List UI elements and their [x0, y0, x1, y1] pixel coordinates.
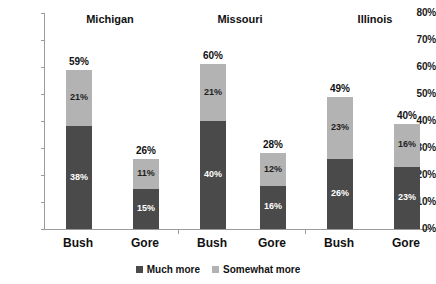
bar-total-label: 26% — [127, 146, 165, 156]
x-category-label-1: Bush — [48, 236, 108, 250]
bar-segment-label-much-more: 40% — [200, 170, 226, 179]
bar-segment-much-more: 15% — [133, 189, 159, 230]
bar-stack: 23%16% — [394, 124, 420, 229]
y-tick-mark — [41, 202, 45, 203]
y-tick-mark — [41, 175, 45, 176]
group-separator — [305, 229, 306, 234]
bar-segment-label-much-more: 23% — [394, 193, 420, 202]
bar-total-label: 60% — [194, 51, 232, 61]
bar-segment-much-more: 40% — [200, 121, 226, 229]
y-tick-mark — [41, 94, 45, 95]
bar-stack: 16%12% — [260, 153, 286, 229]
bar-total-label: 59% — [60, 57, 98, 67]
bar-stack: 38%21% — [66, 70, 92, 229]
bar-segment-label-somewhat-more: 16% — [394, 140, 420, 149]
bar-segment-much-more: 23% — [394, 167, 420, 229]
bar-segment-much-more: 26% — [327, 159, 353, 229]
bar-segment-somewhat-more: 11% — [133, 159, 159, 189]
legend-label-much-more: Much more — [147, 264, 200, 275]
bar-segment-label-somewhat-more: 21% — [200, 88, 226, 97]
bar-stack: 26%23% — [327, 97, 353, 229]
legend-item-much-more: Much more — [136, 264, 200, 275]
chart-legend: Much more Somewhat more — [0, 264, 436, 275]
x-axis-line — [44, 229, 432, 230]
bar-1: 38%21%59% — [66, 70, 92, 229]
bar-segment-label-much-more: 16% — [260, 202, 286, 211]
bar-segment-label-much-more: 15% — [133, 204, 159, 213]
bar-segment-label-much-more: 38% — [66, 173, 92, 182]
y-tick-label-60: 60% — [396, 62, 436, 72]
bar-6: 23%16%40% — [394, 124, 420, 229]
bar-4: 16%12%28% — [260, 153, 286, 229]
bar-segment-somewhat-more: 21% — [200, 64, 226, 121]
bar-segment-much-more: 16% — [260, 186, 286, 229]
y-tick-mark — [41, 121, 45, 122]
bar-total-label: 40% — [388, 111, 426, 121]
bar-total-label: 28% — [254, 140, 292, 150]
bar-segment-somewhat-more: 23% — [327, 97, 353, 159]
bar-stack: 15%11% — [133, 159, 159, 229]
legend-item-somewhat-more: Somewhat more — [212, 264, 300, 275]
bar-segment-label-somewhat-more: 21% — [66, 93, 92, 102]
y-tick-mark — [41, 229, 45, 230]
bar-3: 40%21%60% — [200, 64, 226, 229]
x-category-label-2: Gore — [115, 236, 175, 250]
bar-segment-label-somewhat-more: 11% — [133, 169, 159, 178]
group-title-michigan: Michigan — [70, 13, 150, 25]
y-tick-label-70: 70% — [396, 35, 436, 45]
x-category-label-3: Bush — [182, 236, 242, 250]
group-separator — [178, 229, 179, 234]
legend-swatch-somewhat-more-icon — [212, 266, 219, 273]
x-category-label-6: Gore — [376, 236, 436, 250]
x-category-label-5: Bush — [309, 236, 369, 250]
bar-segment-somewhat-more: 16% — [394, 124, 420, 167]
group-title-missouri: Missouri — [200, 13, 280, 25]
bar-stack: 40%21% — [200, 64, 226, 229]
y-tick-mark — [41, 40, 45, 41]
bar-segment-somewhat-more: 12% — [260, 153, 286, 185]
stacked-bar-chart: 80% 70% 60% 50% 40% 30% 20% 10% 0% Michi… — [0, 0, 436, 284]
legend-label-somewhat-more: Somewhat more — [223, 264, 300, 275]
y-tick-mark — [41, 13, 45, 14]
group-title-illinois: Illinois — [335, 13, 415, 25]
x-category-label-4: Gore — [242, 236, 302, 250]
bar-segment-label-much-more: 26% — [327, 189, 353, 198]
bar-total-label: 49% — [321, 84, 359, 94]
legend-swatch-much-more-icon — [136, 266, 143, 273]
bar-segment-label-somewhat-more: 23% — [327, 123, 353, 132]
bar-2: 15%11%26% — [133, 159, 159, 229]
bar-segment-much-more: 38% — [66, 126, 92, 229]
y-tick-mark — [41, 67, 45, 68]
y-tick-mark — [41, 148, 45, 149]
bar-segment-label-somewhat-more: 12% — [260, 165, 286, 174]
y-tick-label-50: 50% — [396, 89, 436, 99]
bar-segment-somewhat-more: 21% — [66, 70, 92, 127]
bar-5: 26%23%49% — [327, 97, 353, 229]
